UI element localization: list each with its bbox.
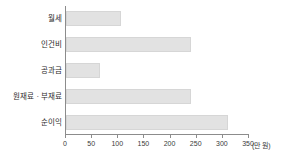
x-axis-tick (91, 134, 92, 138)
plot-area: 월세 인건비 공과금 원재료 · 부재료 순이익 050100150200250… (0, 0, 287, 158)
x-axis-tick (117, 134, 118, 138)
bar-1 (66, 37, 191, 52)
bar-2 (66, 63, 100, 78)
category-label-2: 공과금 (41, 65, 62, 76)
category-label-0: 월세 (48, 13, 62, 24)
x-axis-tick (248, 134, 249, 138)
x-axis-tick (170, 134, 171, 138)
bar-4 (66, 115, 228, 130)
category-label-4: 순이익 (41, 117, 62, 128)
bar-0 (66, 11, 121, 26)
x-axis-tick-label: 300 (216, 140, 228, 147)
category-label-1: 인건비 (41, 39, 62, 50)
x-axis-tick-label: 150 (138, 140, 150, 147)
x-axis-tick (196, 134, 197, 138)
x-axis-tick (65, 134, 66, 138)
x-axis-tick-label: 200 (164, 140, 176, 147)
x-axis-tick (222, 134, 223, 138)
category-label-3: 원재료 · 부재료 (13, 91, 62, 102)
x-axis-tick-label: 0 (63, 140, 67, 147)
bar-3 (66, 89, 191, 104)
x-axis-line (65, 134, 248, 135)
x-axis-tick-label: 100 (111, 140, 123, 147)
axis-unit-label: (만 원) (252, 140, 271, 150)
bar-chart: 월세 인건비 공과금 원재료 · 부재료 순이익 050100150200250… (0, 0, 287, 158)
x-axis-tick (143, 134, 144, 138)
x-axis-tick-label: 250 (190, 140, 202, 147)
x-axis-tick-label: 50 (87, 140, 95, 147)
